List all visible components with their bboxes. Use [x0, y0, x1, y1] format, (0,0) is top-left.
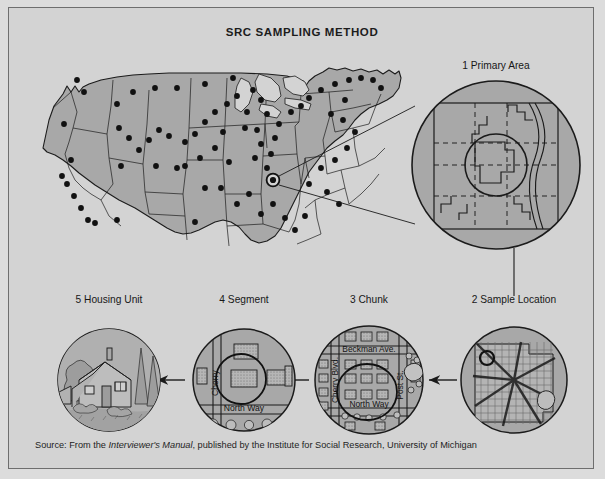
page-title: SRC SAMPLING METHOD — [9, 26, 595, 38]
us-map-sample-dots — [59, 75, 384, 233]
street-label-cherry: Cherry — [210, 369, 220, 395]
us-map-state-borders — [53, 78, 385, 246]
street-label-beckman: Beckman Ave. — [342, 344, 395, 354]
us-map-great-lakes — [235, 74, 311, 118]
city-street-grid — [475, 342, 553, 424]
diagram-canvas: Beckman Ave. Cherry Blvd. Post St. North… — [9, 8, 595, 470]
figure-root: SRC SAMPLING METHOD — [0, 0, 605, 479]
segment-selected-housing-unit-ring — [216, 354, 266, 404]
us-map — [43, 68, 401, 246]
source-prefix: Source: From the — [35, 440, 109, 450]
segment-buildings — [197, 344, 292, 387]
stage-3-chunk-circle[interactable]: Beckman Ave. Cherry Blvd. Post St. North… — [315, 326, 423, 434]
stage-1-primary-area-circle[interactable] — [412, 81, 580, 249]
segment-streets — [193, 329, 295, 431]
chunk-streets — [315, 326, 423, 434]
house-grass — [61, 414, 154, 421]
stage-label-segment: 4 Segment — [193, 294, 295, 305]
house-drawing — [59, 348, 131, 407]
source-italic-title: Interviewer's Manual — [109, 440, 193, 450]
stage-5-housing-unit-circle[interactable] — [55, 329, 160, 431]
us-map-selected-marker[interactable] — [267, 174, 280, 187]
stage-4-segment-circle[interactable]: Cherry North Way — [193, 329, 295, 431]
primary-area-inner-sample-circle — [465, 134, 527, 196]
house-shrubs — [55, 404, 132, 417]
township-grid — [434, 103, 558, 229]
street-label-cherry-blvd: Cherry Blvd. — [330, 357, 340, 403]
source-note: Source: From the Interviewer's Manual, p… — [35, 440, 477, 450]
chunk-buildings — [319, 332, 420, 430]
park-shape — [537, 391, 554, 410]
stage-label-sample-location: 2 Sample Location — [449, 294, 579, 305]
segment-trees — [208, 419, 272, 430]
us-map-landmass — [43, 68, 401, 243]
county-subdivisions — [441, 105, 533, 220]
stage-label-housing-unit: 5 Housing Unit — [58, 294, 160, 305]
house-trees-left — [64, 360, 94, 410]
chunk-selected-segment-ring — [337, 364, 397, 420]
street-label-north-way-segment: North Way — [224, 403, 265, 413]
chunk-trees — [342, 353, 422, 421]
chunk-park — [404, 363, 423, 381]
source-suffix: , published by the Institute for Social … — [193, 440, 477, 450]
street-label-post: Post St. — [395, 370, 405, 399]
chunk-street-labels: Beckman Ave. Cherry Blvd. Post St. North… — [330, 344, 405, 409]
segment-street-labels: Cherry North Way — [210, 369, 265, 413]
radial-avenues — [473, 342, 555, 426]
street-label-north-way-chunk: North Way — [349, 399, 389, 409]
diagram-panel: SRC SAMPLING METHOD — [8, 7, 594, 469]
sample-location-chunk-marker — [480, 351, 494, 365]
stage-label-primary-area: 1 Primary Area — [431, 60, 561, 71]
house-trees-right — [135, 348, 160, 406]
stage-2-sample-location-circle[interactable] — [461, 327, 567, 433]
magnifier-connector-lines — [279, 106, 415, 224]
stage-label-chunk: 3 Chunk — [318, 294, 420, 305]
river — [529, 103, 545, 229]
